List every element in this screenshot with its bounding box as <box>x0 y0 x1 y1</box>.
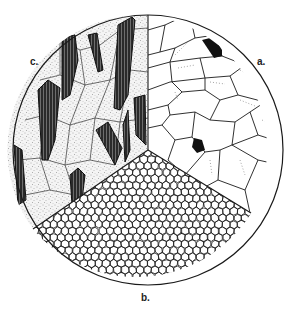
sector-c-label: c. <box>30 57 38 67</box>
microstructure-figure <box>0 0 291 313</box>
sector-a-label: a. <box>257 57 265 67</box>
sector-b-label: b. <box>141 293 150 303</box>
